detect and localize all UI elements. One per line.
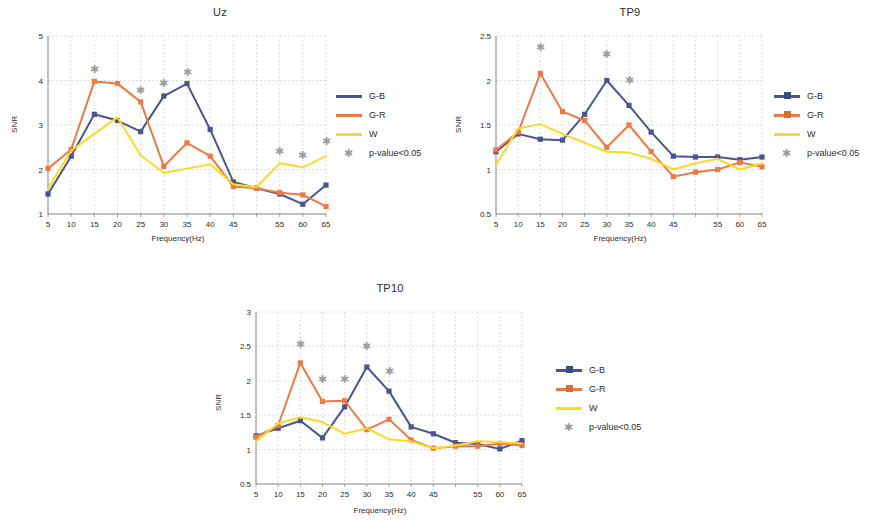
data-point-g-r bbox=[649, 149, 654, 154]
data-point-g-r bbox=[671, 174, 676, 179]
data-point-g-b bbox=[298, 418, 303, 423]
legend-label-g-r: G-R bbox=[807, 110, 824, 120]
svg-text:25: 25 bbox=[580, 220, 589, 229]
svg-text:2: 2 bbox=[39, 166, 44, 175]
legend-label-g-b: G-B bbox=[369, 91, 385, 101]
legend-uz: G-B G-R W ✱ p-value<0.05 bbox=[336, 88, 421, 164]
data-point-g-r bbox=[300, 192, 305, 197]
plot-area-tp10: 0.511.522.5351015202530354045556065✱✱✱✱✱ bbox=[230, 304, 530, 510]
legend-label-w: W bbox=[807, 129, 816, 139]
data-point-g-r bbox=[323, 204, 328, 209]
data-point-g-b bbox=[364, 364, 369, 369]
data-point-g-r bbox=[277, 190, 282, 195]
series-line-w bbox=[496, 124, 762, 169]
data-point-g-r bbox=[92, 79, 97, 84]
svg-text:60: 60 bbox=[298, 220, 307, 229]
legend-label-pvalue: p-value<0.05 bbox=[807, 148, 859, 158]
significance-asterisk: ✱ bbox=[625, 74, 634, 86]
svg-text:0.5: 0.5 bbox=[480, 210, 492, 219]
plot-svg-uz: 1234551015202530354045556065✱✱✱✱✱✱✱ bbox=[22, 28, 334, 240]
svg-text:5: 5 bbox=[39, 32, 44, 41]
data-point-g-r bbox=[493, 147, 498, 152]
svg-text:25: 25 bbox=[340, 490, 349, 499]
svg-text:20: 20 bbox=[113, 220, 122, 229]
legend-item-g-r[interactable]: G-R bbox=[556, 381, 641, 397]
data-point-g-b bbox=[409, 424, 414, 429]
legend-item-pvalue[interactable]: ✱ p-value<0.05 bbox=[774, 145, 859, 161]
svg-text:35: 35 bbox=[183, 220, 192, 229]
svg-text:2.5: 2.5 bbox=[240, 342, 252, 351]
chart-panel-tp10: TP10 SNR 0.511.522.535101520253035404555… bbox=[200, 278, 670, 532]
data-point-g-b bbox=[161, 93, 166, 98]
svg-text:15: 15 bbox=[90, 220, 99, 229]
chart-title-tp9: TP9 bbox=[440, 6, 820, 18]
legend-item-g-r[interactable]: G-R bbox=[774, 107, 859, 123]
legend-label-w: W bbox=[369, 129, 378, 139]
data-point-g-r bbox=[626, 122, 631, 127]
data-point-g-b bbox=[693, 154, 698, 159]
legend-label-g-r: G-R bbox=[589, 384, 606, 394]
legend-item-w[interactable]: W bbox=[336, 126, 421, 142]
data-point-g-b bbox=[386, 389, 391, 394]
legend-swatch-g-b bbox=[336, 88, 362, 104]
svg-text:1: 1 bbox=[39, 210, 44, 219]
data-point-g-r bbox=[208, 154, 213, 159]
legend-item-pvalue[interactable]: ✱ p-value<0.05 bbox=[556, 419, 641, 435]
significance-asterisk: ✱ bbox=[298, 149, 307, 161]
svg-text:30: 30 bbox=[362, 490, 371, 499]
data-point-g-b bbox=[538, 137, 543, 142]
chart-panel-tp9: TP9 SNR 0.511.522.5510152025303540455560… bbox=[440, 0, 876, 262]
plot-svg-tp10: 0.511.522.5351015202530354045556065✱✱✱✱✱ bbox=[230, 304, 530, 510]
data-point-g-r bbox=[737, 160, 742, 165]
legend-label-pvalue: p-value<0.05 bbox=[589, 422, 641, 432]
data-point-g-r bbox=[115, 81, 120, 86]
legend-item-g-b[interactable]: G-B bbox=[556, 362, 641, 378]
legend-item-w[interactable]: W bbox=[556, 400, 641, 416]
data-point-g-b bbox=[323, 182, 328, 187]
significance-asterisk: ✱ bbox=[90, 63, 99, 75]
data-point-g-r bbox=[582, 118, 587, 123]
plot-svg-tp9: 0.511.522.551015202530354045556065✱✱✱ bbox=[470, 28, 770, 240]
chart-panel-uz: Uz SNR 1234551015202530354045556065✱✱✱✱✱… bbox=[0, 0, 440, 262]
svg-text:1.5: 1.5 bbox=[240, 411, 252, 420]
data-point-g-r bbox=[386, 417, 391, 422]
data-point-g-b bbox=[560, 138, 565, 143]
significance-asterisk: ✱ bbox=[159, 77, 168, 89]
data-point-g-r bbox=[475, 444, 480, 449]
legend-swatch-g-r bbox=[774, 107, 800, 123]
svg-text:40: 40 bbox=[647, 220, 656, 229]
significance-asterisk: ✱ bbox=[385, 365, 394, 377]
legend-tp10: G-B G-R W ✱ p-value<0.05 bbox=[556, 362, 641, 438]
chart-title-uz: Uz bbox=[0, 6, 440, 18]
data-point-g-r bbox=[538, 71, 543, 76]
data-point-g-b bbox=[671, 154, 676, 159]
data-point-g-b bbox=[497, 446, 502, 451]
data-point-g-b bbox=[604, 78, 609, 83]
svg-text:5: 5 bbox=[494, 220, 499, 229]
svg-text:10: 10 bbox=[274, 490, 283, 499]
data-point-g-b bbox=[184, 81, 189, 86]
svg-text:35: 35 bbox=[625, 220, 634, 229]
svg-text:55: 55 bbox=[275, 220, 284, 229]
legend-swatch-w bbox=[556, 400, 582, 416]
data-point-g-b bbox=[208, 127, 213, 132]
legend-item-w[interactable]: W bbox=[774, 126, 859, 142]
legend-item-g-r[interactable]: G-R bbox=[336, 107, 421, 123]
svg-text:4: 4 bbox=[39, 77, 44, 86]
significance-asterisk: ✱ bbox=[362, 340, 371, 352]
legend-item-g-b[interactable]: G-B bbox=[774, 88, 859, 104]
data-point-g-b bbox=[300, 202, 305, 207]
svg-text:3: 3 bbox=[247, 308, 252, 317]
significance-asterisk: ✱ bbox=[536, 41, 545, 53]
plot-area-uz: 1234551015202530354045556065✱✱✱✱✱✱✱ bbox=[22, 28, 334, 240]
svg-text:1.5: 1.5 bbox=[480, 121, 492, 130]
svg-text:5: 5 bbox=[254, 490, 259, 499]
legend-item-g-b[interactable]: G-B bbox=[336, 88, 421, 104]
data-point-g-b bbox=[626, 103, 631, 108]
svg-text:65: 65 bbox=[518, 490, 527, 499]
svg-text:45: 45 bbox=[669, 220, 678, 229]
legend-item-pvalue[interactable]: ✱ p-value<0.05 bbox=[336, 145, 421, 161]
legend-swatch-w bbox=[336, 126, 362, 142]
asterisk-icon: ✱ bbox=[774, 145, 800, 161]
svg-text:15: 15 bbox=[536, 220, 545, 229]
